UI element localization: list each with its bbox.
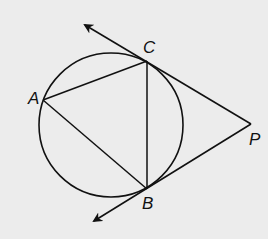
label-c: C bbox=[143, 38, 156, 57]
label-b: B bbox=[142, 194, 153, 213]
segment-ab bbox=[43, 100, 147, 189]
label-p: P bbox=[249, 130, 261, 149]
geometry-diagram: C A P B bbox=[0, 0, 268, 239]
tangent-ray-pb bbox=[94, 124, 251, 221]
label-a: A bbox=[27, 89, 39, 108]
segment-ac bbox=[43, 61, 147, 100]
